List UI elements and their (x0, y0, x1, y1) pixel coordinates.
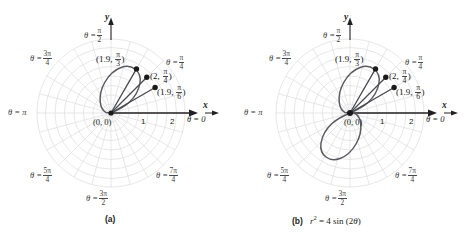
theta-7pi-over-4-label: θ =7π4 (156, 167, 178, 183)
point-label-1-9-pi-6: (1.9, π6) (396, 84, 425, 100)
point-label-2-pi-4: (2, π4) (389, 68, 411, 84)
point-label-2-pi-4: (2, π4) (150, 68, 172, 84)
caption-a: (a) (105, 214, 115, 224)
origin-dot (108, 110, 113, 115)
origin-dot (347, 110, 353, 116)
caption-b-label: (b) (292, 216, 303, 226)
marker-point-2-pi-4 (383, 75, 388, 80)
panel-a: y x θ =π2 θ =π4 θ =3π4 θ = π θ =5π4 θ =3… (0, 0, 232, 232)
theta-zero-label: θ = 0 (426, 115, 444, 124)
theta-5pi-over-4-label: θ =5π4 (30, 167, 52, 183)
panel-b: y x θ =π2 θ =π4 θ =3π4 θ = π θ =5π4 θ =3… (232, 0, 464, 232)
origin-label: (0, 0) (344, 117, 362, 127)
y-axis-label: y (344, 12, 348, 22)
caption-b: (b) r2 = 4 sin (2θ) (292, 214, 361, 226)
tick-label-2: 2 (409, 117, 413, 126)
theta-3pi-over-4-label: θ =3π4 (269, 50, 291, 66)
y-axis-label: y (105, 12, 109, 22)
tick-label-2: 2 (170, 117, 174, 126)
x-axis-label: x (203, 100, 208, 110)
point-label-1-9-pi-3: (1.9, π3) (96, 51, 125, 67)
point-label-1-9-pi-6: (1.9, π6) (157, 84, 186, 100)
marker-point-1-9-pi-3 (134, 66, 139, 71)
theta-pi-label: θ = π (244, 108, 262, 117)
caption-b-equation: r2 = 4 sin (2θ) (310, 216, 361, 226)
point-label-1-9-pi-3: (1.9, π3) (335, 51, 364, 67)
origin-label: (0, 0) (93, 117, 111, 127)
x-axis-label: x (442, 100, 447, 110)
tick-label-1: 1 (141, 117, 145, 126)
theta-3pi-over-4-label: θ =3π4 (30, 50, 52, 66)
marker-point-2-pi-4 (144, 75, 149, 80)
marker-point-1-9-pi-3 (373, 66, 378, 71)
polar-figure-pair: y x θ =π2 θ =π4 θ =3π4 θ = π θ =5π4 θ =3… (0, 0, 465, 232)
theta-5pi-over-4-label: θ =5π4 (267, 167, 289, 183)
tick-label-1: 1 (380, 117, 384, 126)
theta-zero-label: θ = 0 (187, 115, 205, 124)
theta-3pi-over-2-label: θ =3π2 (325, 190, 347, 206)
theta-7pi-over-4-label: θ =7π4 (395, 167, 417, 183)
theta-pi-over-2-label: θ =π2 (323, 27, 342, 43)
theta-pi-label: θ = π (8, 108, 26, 117)
theta-3pi-over-2-label: θ =3π2 (86, 190, 108, 206)
theta-pi-over-2-label: θ =π2 (84, 27, 103, 43)
